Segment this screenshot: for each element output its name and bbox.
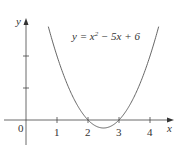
- equation-label: y = x2 − 5x + 6: [71, 30, 140, 42]
- x-axis-label: x: [166, 122, 172, 134]
- x-tick-label-3: 3: [116, 126, 122, 138]
- y-axis-label: y: [15, 15, 21, 27]
- x-tick-label-1: 1: [54, 126, 60, 138]
- x-tick-label-2: 2: [85, 126, 91, 138]
- origin-label: 0: [18, 122, 24, 134]
- x-tick-label-4: 4: [147, 126, 153, 138]
- y-axis-arrow-icon: [24, 18, 29, 25]
- parabola-graph: 0 1 2 3 4 x y y = x2 − 5x + 6: [0, 0, 180, 151]
